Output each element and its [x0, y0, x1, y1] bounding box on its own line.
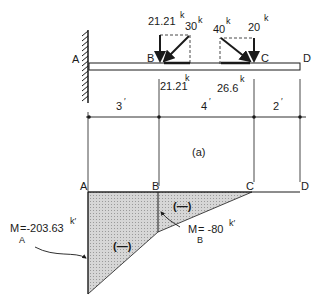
dim-label-AB: 3	[116, 100, 122, 112]
moment-point-label-D: D	[301, 180, 309, 192]
load-C-inclined-value: 40	[213, 23, 225, 35]
horiz-B-value: 21.21	[160, 80, 188, 92]
load-C-inclined-unit: k	[226, 16, 231, 26]
horiz-C-unit: k	[240, 74, 245, 84]
dim-unit-BC: ′	[209, 96, 211, 106]
MA-symbol: M	[10, 222, 19, 234]
point-label-B: B	[147, 52, 154, 64]
annotation-MA: M A =-203.63 k′	[10, 216, 86, 258]
guide-lines	[88, 79, 300, 192]
fixed-support	[82, 30, 88, 103]
sign-region-BC: (—)	[173, 200, 192, 212]
point-label-D: D	[303, 52, 311, 64]
MA-value: =-203.63	[20, 222, 64, 234]
moment-point-label-C: C	[246, 180, 254, 192]
load-group-B: 21.21 k 30 k	[148, 10, 203, 64]
MB-unit: k′	[229, 218, 236, 228]
figure-caption: (a)	[192, 146, 205, 158]
MB-symbol: M	[188, 223, 197, 235]
MA-subscript: A	[19, 235, 25, 245]
load-B-vertical-value: 21.21	[148, 15, 176, 27]
sign-region-AB: (—)	[113, 240, 132, 252]
MB-value: = -80	[198, 223, 223, 235]
load-C-vertical-value: 20	[248, 21, 260, 33]
dim-unit-CD: ′	[281, 96, 283, 106]
inclined-force-arrow-B	[164, 36, 189, 61]
point-label-C: C	[261, 52, 269, 64]
dim-unit-AB: ′	[124, 96, 126, 106]
point-label-A: A	[72, 53, 80, 65]
structural-diagram: A B C D 21.21 k 30 k 40 k 20 k 21.21 k 2…	[0, 0, 324, 305]
load-B-inclined-value: 30	[185, 20, 197, 32]
MA-unit: k′	[70, 216, 77, 226]
load-B-vertical-unit: k	[180, 10, 185, 20]
moment-point-label-A: A	[80, 180, 88, 192]
load-C-vertical-unit: k	[264, 13, 269, 23]
beam	[89, 63, 300, 70]
dim-label-CD: 2	[273, 100, 279, 112]
MB-subscript: B	[197, 235, 203, 245]
dim-label-BC: 4	[201, 100, 207, 112]
horiz-C-value: 26.6	[217, 82, 238, 94]
load-B-inclined-unit: k	[198, 15, 203, 25]
inclined-force-arrow-C	[221, 38, 250, 61]
moment-point-label-B: B	[152, 180, 159, 192]
dimension-line	[86, 115, 306, 119]
horiz-B-unit: k	[185, 73, 190, 83]
